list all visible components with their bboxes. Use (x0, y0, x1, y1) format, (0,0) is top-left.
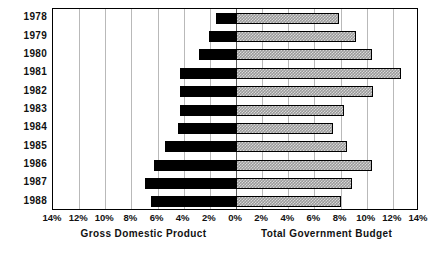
x-tick-label: 6% (307, 212, 321, 223)
x-tick-label: 0% (228, 212, 242, 223)
bar-total-government-budget (236, 196, 341, 207)
x-tick-label: 2% (254, 212, 268, 223)
y-axis-label: 1979 (24, 31, 47, 41)
y-axis-label: 1984 (24, 122, 47, 132)
bar-total-government-budget (236, 160, 372, 171)
bar-gross-domestic-product (178, 123, 236, 134)
bar-gross-domestic-product (199, 49, 236, 60)
bar-gross-domestic-product (180, 105, 236, 116)
y-axis-label: 1987 (24, 177, 47, 187)
bar-total-government-budget (236, 68, 401, 79)
bar-total-government-budget (236, 123, 333, 134)
x-tick-label: 8% (124, 212, 138, 223)
bar-gross-domestic-product (209, 31, 236, 42)
y-axis-label: 1981 (24, 67, 47, 77)
gridline (393, 9, 394, 209)
x-tick-label: 10% (356, 212, 375, 223)
x-tick-label: 12% (69, 212, 88, 223)
bar-gross-domestic-product (151, 196, 236, 207)
bar-gross-domestic-product (165, 141, 236, 152)
x-tick-label: 14% (42, 212, 61, 223)
axis-titles: Gross Domestic Product Total Government … (0, 228, 429, 244)
x-axis-title-right: Total Government Budget (261, 228, 392, 239)
y-axis-label: 1988 (24, 196, 47, 206)
chart-container: 1978197919801981198219831984198519861987… (0, 0, 429, 254)
y-axis-label: 1986 (24, 159, 47, 169)
gridline (367, 9, 368, 209)
x-tick-label: 4% (176, 212, 190, 223)
plot-area (52, 8, 418, 210)
y-axis-category-labels: 1978197919801981198219831984198519861987… (0, 8, 50, 210)
bar-gross-domestic-product (216, 13, 236, 24)
x-axis-title-left: Gross Domestic Product (80, 228, 206, 239)
y-axis-label: 1985 (24, 141, 47, 151)
bar-total-government-budget (236, 178, 352, 189)
bar-total-government-budget (236, 31, 356, 42)
bar-total-government-budget (236, 141, 347, 152)
x-tick-label: 14% (408, 212, 427, 223)
x-tick-label: 12% (382, 212, 401, 223)
gridline (131, 9, 132, 209)
bar-total-government-budget (236, 86, 373, 97)
x-axis-tick-labels: 14%12%10%8%6%4%2%0%2%4%6%8%10%12%14% (0, 212, 429, 226)
y-axis-label: 1983 (24, 104, 47, 114)
gridline (105, 9, 106, 209)
y-axis-label: 1982 (24, 86, 47, 96)
x-tick-label: 8% (333, 212, 347, 223)
x-tick-label: 6% (150, 212, 164, 223)
gridline (79, 9, 80, 209)
bar-gross-domestic-product (154, 160, 236, 171)
bar-gross-domestic-product (180, 86, 236, 97)
x-tick-label: 4% (280, 212, 294, 223)
bar-total-government-budget (236, 13, 339, 24)
y-axis-label: 1980 (24, 49, 47, 59)
bar-gross-domestic-product (145, 178, 237, 189)
x-tick-label: 10% (95, 212, 114, 223)
bar-total-government-budget (236, 49, 372, 60)
bar-gross-domestic-product (180, 68, 236, 79)
bar-total-government-budget (236, 105, 344, 116)
y-axis-label: 1978 (24, 12, 47, 22)
x-tick-label: 2% (202, 212, 216, 223)
